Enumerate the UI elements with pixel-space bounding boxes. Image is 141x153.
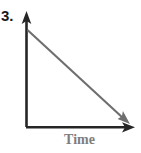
figure-canvas: 3. Time <box>0 0 141 153</box>
item-number-label: 3. <box>1 7 13 24</box>
x-axis-label: Time <box>26 132 133 148</box>
trend-arrowhead-icon <box>118 111 130 124</box>
trend-line <box>28 30 124 118</box>
graph-drawing <box>0 0 141 153</box>
